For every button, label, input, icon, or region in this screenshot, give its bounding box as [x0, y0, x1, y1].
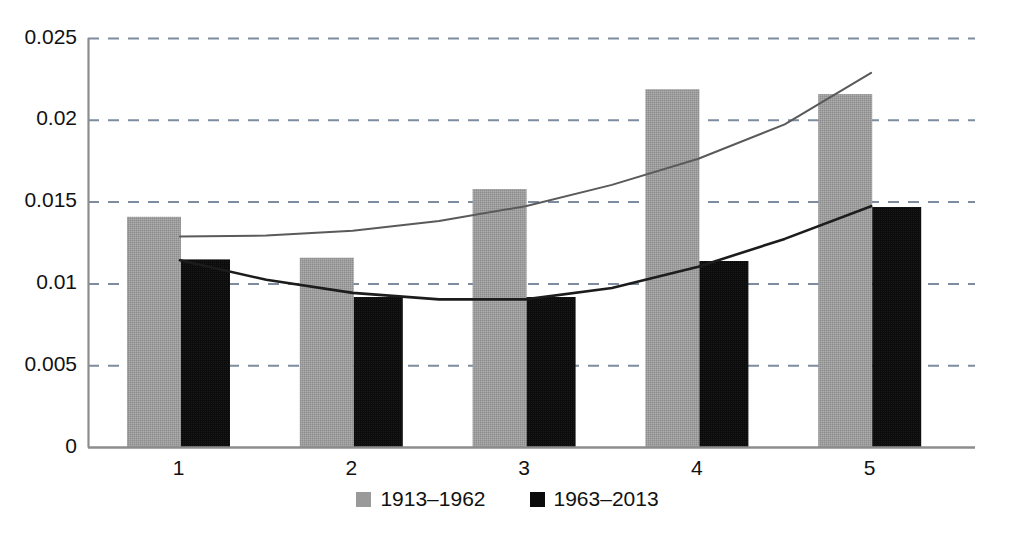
- x-axis-tick-label: 4: [657, 456, 737, 480]
- y-axis-tick-label: 0.015: [24, 188, 77, 212]
- bars-series-1913-1962: [127, 89, 872, 447]
- gray-square-icon: [356, 492, 371, 507]
- bars-series-1963-2013: [181, 207, 921, 448]
- x-axis-tick-label: 5: [830, 456, 910, 480]
- y-axis-tick-label: 0.025: [24, 25, 77, 49]
- bar-series-a: [818, 94, 872, 447]
- y-axis-tick-label: 0.01: [36, 270, 77, 294]
- y-axis-tick-label: 0.005: [24, 352, 77, 376]
- bar-series-b: [181, 259, 230, 447]
- x-axis-tick-label: 3: [484, 456, 564, 480]
- legend-item-1963-2013[interactable]: 1963–2013: [530, 487, 659, 511]
- legend-label: 1963–2013: [554, 487, 659, 511]
- bar-series-b: [872, 207, 921, 448]
- bar-series-a: [127, 217, 181, 448]
- bar-series-b: [699, 261, 748, 448]
- x-axis-tick-label: 1: [139, 456, 219, 480]
- black-square-icon: [530, 492, 545, 507]
- bar-series-a: [473, 189, 527, 448]
- x-axis-tick-label: 2: [311, 456, 391, 480]
- y-axis-tick-label: 0.02: [36, 106, 77, 130]
- bar-series-b: [527, 297, 576, 448]
- bar-series-b: [354, 297, 403, 448]
- grouped-bar-chart: 0.0250.020.0150.010.0050 12345 1913–1962…: [0, 0, 1015, 534]
- y-axis-tick-label: 0: [65, 434, 77, 458]
- legend: 1913–1962 1963–2013: [0, 487, 1015, 511]
- legend-label: 1913–1962: [380, 487, 485, 511]
- plot-area: [0, 0, 1015, 534]
- legend-item-1913-1962[interactable]: 1913–1962: [356, 487, 485, 511]
